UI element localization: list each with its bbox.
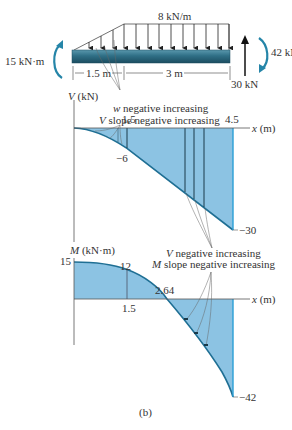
beam-leader-lines bbox=[96, 40, 120, 90]
shear-x-axis-label: x (m) bbox=[251, 122, 276, 135]
shear-area bbox=[74, 128, 233, 230]
dim-left-label: 1.5 m bbox=[86, 67, 112, 79]
moment-diagram: M (kN·m) x (m) 15 12 2.64 1.5 −42 V nega… bbox=[60, 244, 276, 403]
shear-note-line1: w negative increasing bbox=[113, 102, 209, 114]
shear-tick-4-5: 4.5 bbox=[225, 113, 239, 125]
moment-area-negative bbox=[167, 299, 233, 397]
load-label: 8 kN/m bbox=[158, 10, 192, 22]
shear-diagram: V (kN) x (m) 1.5 4.5 −6 −30 w negative i… bbox=[68, 90, 276, 248]
moment-axis-label: M (kN·m) bbox=[69, 244, 115, 257]
moment-value-12: 12 bbox=[120, 260, 131, 272]
shear-note-line2: V slope negative increasing bbox=[99, 114, 220, 126]
shear-axis-label: V (kN) bbox=[68, 90, 99, 103]
moment-value-2-64: 2.64 bbox=[155, 284, 175, 296]
load-arrows bbox=[89, 24, 229, 48]
figure-label: (b) bbox=[139, 406, 152, 419]
left-moment-label: 15 kN·m bbox=[5, 55, 45, 67]
moment-x-axis-label: x (m) bbox=[251, 293, 276, 306]
diagram-canvas: 8 kN/m 15 kN·m 30 kN 42 kN 1.5 m 3 m bbox=[0, 0, 292, 430]
dim-right-label: 3 m bbox=[166, 67, 183, 79]
moment-tick-1-5: 1.5 bbox=[122, 302, 136, 314]
beam-loading: 8 kN/m 15 kN·m 30 kN 42 kN 1.5 m 3 m bbox=[5, 10, 292, 90]
right-moment-arrow-icon bbox=[259, 38, 267, 69]
shear-value-minus30: −30 bbox=[239, 224, 257, 236]
moment-value-minus42: −42 bbox=[239, 391, 256, 403]
right-moment-label: 42 kN bbox=[271, 46, 292, 58]
beam bbox=[72, 50, 230, 63]
shear-value-minus6: −6 bbox=[116, 152, 128, 164]
reaction-label: 30 kN bbox=[231, 78, 258, 90]
moment-note-line2: M slope negative increasing bbox=[151, 258, 276, 270]
left-moment-arrow-icon bbox=[54, 45, 62, 78]
moment-value-15: 15 bbox=[60, 255, 72, 267]
reaction-arrowhead-icon bbox=[241, 35, 249, 44]
